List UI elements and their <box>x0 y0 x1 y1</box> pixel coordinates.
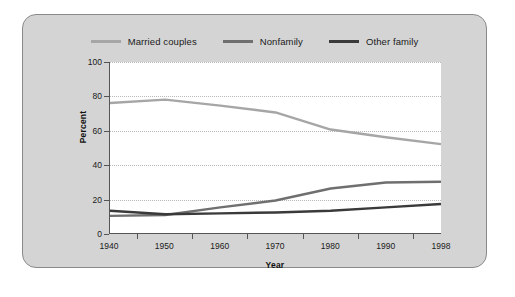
legend-item-other-family: Other family <box>329 36 418 47</box>
x-tick-mark <box>137 234 138 239</box>
legend-swatch-other-family <box>329 40 359 43</box>
x-axis-title: Year <box>109 260 441 270</box>
x-tick-mark <box>303 234 304 239</box>
x-tick-label: 1970 <box>266 241 285 251</box>
chart-legend: Married couples Nonfamily Other family <box>23 36 486 47</box>
x-tick-label: 1990 <box>376 241 395 251</box>
x-tick-mark <box>413 234 414 239</box>
y-tick-label: 100 <box>88 57 102 67</box>
legend-label-nonfamily: Nonfamily <box>260 36 303 47</box>
x-tick-label: 1940 <box>100 241 119 251</box>
y-tick-mark <box>104 234 109 235</box>
x-tick-mark <box>358 234 359 239</box>
y-tick-label: 40 <box>93 160 102 170</box>
chart-panel: Married couples Nonfamily Other family P… <box>22 14 487 268</box>
y-axis-title: Percent <box>78 97 88 157</box>
legend-label-other-family: Other family <box>366 36 418 47</box>
series-lines <box>110 62 441 233</box>
legend-label-married-couples: Married couples <box>128 36 197 47</box>
x-tick-label: 1980 <box>321 241 340 251</box>
y-tick-label: 20 <box>93 195 102 205</box>
plot-area <box>109 62 441 234</box>
y-tick-label: 80 <box>93 91 102 101</box>
y-tick-label: 60 <box>93 126 102 136</box>
legend-swatch-nonfamily <box>223 40 253 43</box>
series-line <box>110 204 441 214</box>
legend-item-nonfamily: Nonfamily <box>223 36 303 47</box>
series-line <box>110 182 441 216</box>
x-tick-label: 1960 <box>210 241 229 251</box>
legend-item-married-couples: Married couples <box>91 36 197 47</box>
y-tick-label: 0 <box>97 229 102 239</box>
x-tick-label: 1998 <box>432 241 451 251</box>
x-tick-mark <box>192 234 193 239</box>
series-line <box>110 100 441 144</box>
x-tick-mark <box>247 234 248 239</box>
legend-swatch-married-couples <box>91 40 121 43</box>
plot-wrapper: Percent 020406080100 1940195019601970198… <box>109 62 441 234</box>
x-tick-label: 1950 <box>155 241 174 251</box>
